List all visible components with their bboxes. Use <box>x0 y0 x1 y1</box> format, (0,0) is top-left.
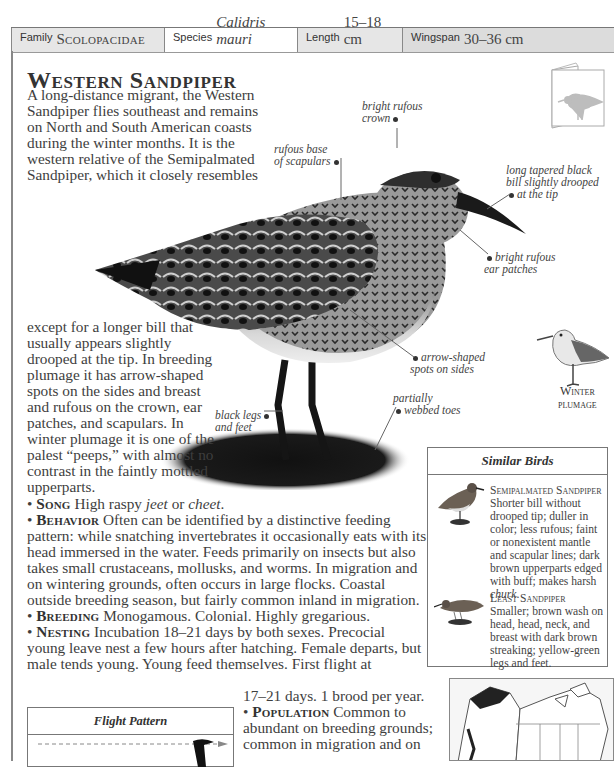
wingspan-cell: Wingspan 30–36 cm <box>403 28 614 52</box>
length-cell: Length 15–18 cm <box>298 28 403 52</box>
length-label: Length <box>306 31 340 43</box>
range-map <box>449 678 614 761</box>
fact-nesting-tail: 17–21 days. 1 brood per year. <box>243 688 443 704</box>
annotation-ear: bright rufous ear patches <box>484 251 555 275</box>
pointer-dot <box>264 414 269 419</box>
length-value: 15–18 cm <box>344 14 402 48</box>
species-header: Family Scolopacidae Species Calidris mau… <box>11 27 614 53</box>
annotation-toes: partially webbed toes <box>393 392 461 416</box>
pointer-dot <box>393 117 398 122</box>
annotation-spots: arrow-shaped spots on sides <box>410 351 485 375</box>
similar-bird-name: Least Sandpiper <box>490 592 605 605</box>
pointer-dot <box>334 160 339 165</box>
intro-continued-text: except for a longer bill that usually ap… <box>27 319 217 495</box>
winter-plumage-illustration <box>535 318 613 390</box>
similar-birds-box: Similar Birds Semipalmated Sandpiper Sho… <box>427 447 608 667</box>
flight-pattern-title: Flight Pattern <box>28 708 233 735</box>
annotation-crown: bright rufous crown <box>362 100 422 124</box>
wingspan-label: Wingspan <box>411 31 460 43</box>
species-cell: Species Calidris mauri <box>165 28 298 52</box>
fact-nesting: • Nesting Incubation 18–21 days by both … <box>27 624 427 672</box>
similar-bird-least: Least Sandpiper Smaller; brown wash on h… <box>490 592 605 670</box>
flight-pattern-box: Flight Pattern <box>27 707 234 767</box>
similar-bird-semipalmated: Semipalmated Sandpiper Shorter bill with… <box>490 484 605 601</box>
species-label: Species <box>173 31 212 43</box>
family-cell: Family Scolopacidae <box>11 28 165 52</box>
species-facts: • Song High raspy jeet or cheet. • Behav… <box>27 496 427 672</box>
annotation-legs: black legs and feet <box>215 409 272 433</box>
pointer-dot <box>413 356 418 361</box>
fact-song: • Song High raspy jeet or cheet. <box>27 496 427 512</box>
family-label: Family <box>20 31 52 43</box>
species-value: Calidris mauri <box>216 14 297 48</box>
annotation-bill: long tapered black bill slightly drooped… <box>506 164 599 200</box>
pointer-dot <box>396 409 401 414</box>
pointer-dot <box>487 256 492 261</box>
pointer-dot <box>509 193 514 198</box>
habitat-book-icon <box>548 62 606 132</box>
annotation-scapulars: rufous base of scapulars <box>274 143 342 167</box>
similar-birds-title: Similar Birds <box>428 448 607 475</box>
population-column: 17–21 days. 1 brood per year. • Populati… <box>243 688 443 752</box>
flight-path-diagram <box>28 735 233 767</box>
wingspan-value: 30–36 cm <box>464 31 524 48</box>
fact-population: • Population Common to abundant on breed… <box>243 704 443 752</box>
fact-breeding: • Breeding Monogamous. Colonial. Highly … <box>27 608 427 624</box>
semipalmated-sandpiper-illustration <box>434 478 486 528</box>
least-sandpiper-illustration <box>434 590 486 630</box>
family-value: Scolopacidae <box>56 31 145 48</box>
winter-plumage-label: Winter plumage <box>558 385 597 411</box>
fact-behavior: • Behavior Often can be identified by a … <box>27 512 427 608</box>
similar-bird-name: Semipalmated Sandpiper <box>490 484 605 497</box>
page-left-rule <box>11 51 13 761</box>
